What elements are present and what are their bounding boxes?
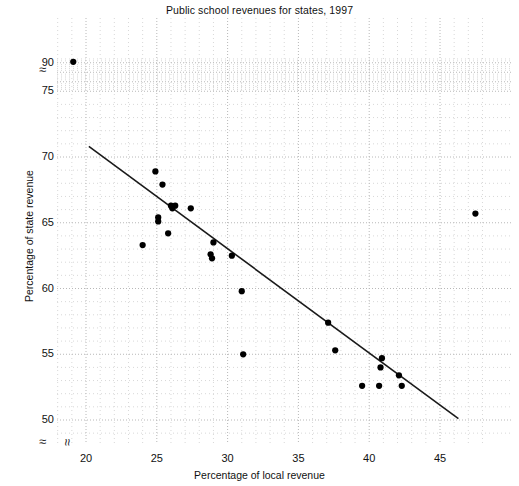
data-point	[239, 288, 245, 294]
y-tick-label: 90	[20, 57, 54, 68]
data-point	[359, 383, 365, 389]
y-axis-break-lower-icon: ≈	[39, 437, 46, 447]
y-tick-label: 75	[20, 85, 54, 96]
scatter-plot-svg	[57, 18, 512, 443]
data-point	[379, 355, 385, 361]
x-tick-label: 35	[278, 453, 318, 464]
data-point	[152, 168, 158, 174]
data-point	[188, 205, 194, 211]
data-point	[472, 210, 478, 216]
x-tick-label: 20	[66, 453, 106, 464]
plot-area	[57, 18, 512, 443]
data-point	[229, 253, 235, 259]
data-point	[399, 383, 405, 389]
data-point	[376, 383, 382, 389]
data-point	[325, 320, 331, 326]
data-point	[209, 255, 215, 261]
y-tick-label: 50	[20, 414, 54, 425]
x-tick-label: 45	[420, 453, 460, 464]
x-tick-label: 30	[208, 453, 248, 464]
chart-root: Public school revenues for states, 1997 …	[0, 0, 519, 486]
data-point	[377, 364, 383, 370]
trendline	[89, 146, 459, 418]
x-axis-break-icon: ≈	[62, 438, 72, 445]
data-point	[240, 351, 246, 357]
y-axis-title: Percentage of state revenue	[23, 116, 35, 356]
y-axis-break-upper-icon: ≈	[39, 65, 46, 75]
x-axis-tick-labels: 202530354045	[0, 453, 519, 469]
data-point	[172, 203, 178, 209]
grid-minor	[57, 18, 512, 443]
chart-title: Public school revenues for states, 1997	[0, 4, 519, 16]
data-point	[140, 242, 146, 248]
data-points	[70, 59, 478, 389]
data-point	[159, 181, 165, 187]
x-tick-label: 40	[349, 453, 389, 464]
data-point	[155, 218, 161, 224]
data-point	[70, 59, 76, 65]
x-axis-title: Percentage of local revenue	[0, 469, 519, 481]
data-point	[396, 372, 402, 378]
data-point	[165, 230, 171, 236]
regression-line	[89, 146, 459, 418]
x-tick-label: 25	[137, 453, 177, 464]
data-point	[210, 239, 216, 245]
data-point	[332, 347, 338, 353]
